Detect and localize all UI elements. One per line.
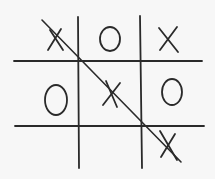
cell-1-2-o-mark[interactable] bbox=[162, 79, 182, 105]
cell-0-1-o-mark[interactable] bbox=[100, 27, 120, 51]
grid-line-vertical-2 bbox=[140, 16, 142, 168]
cell-2-2-x-mark[interactable] bbox=[160, 131, 177, 160]
cell-2-1-empty[interactable] bbox=[80, 128, 140, 166]
cell-2-0-empty[interactable] bbox=[16, 128, 76, 166]
grid-line-vertical-1 bbox=[78, 17, 79, 168]
cell-0-2-x-mark[interactable] bbox=[159, 27, 178, 52]
tic-tac-toe-board bbox=[0, 0, 215, 179]
cell-1-0-o-mark[interactable] bbox=[45, 85, 67, 115]
